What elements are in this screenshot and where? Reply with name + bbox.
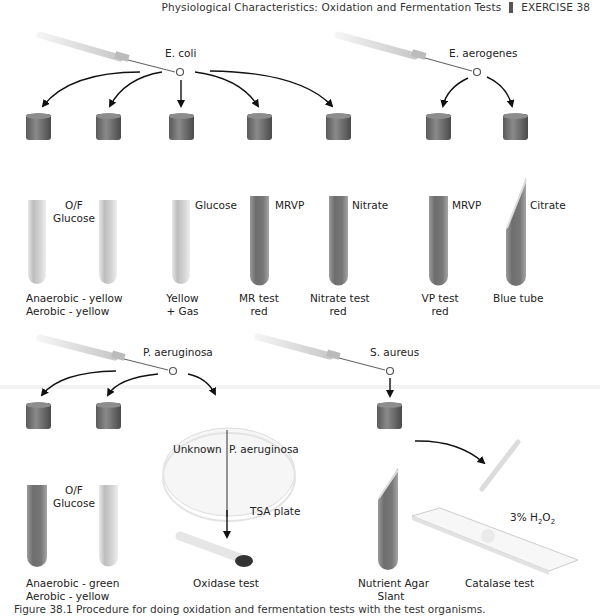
result-vp-test: VP test red: [420, 292, 460, 318]
result-mr-test: MR test red: [239, 292, 279, 318]
oxidase-test-label: Oxidase test: [193, 577, 259, 590]
catalase-test-label: Catalase test: [465, 577, 534, 590]
medium-label-nitrate: Nitrate: [352, 199, 388, 212]
plate-label-paeruginosa: P. aeruginosa: [229, 443, 299, 456]
tube-caps-row2: [26, 402, 402, 429]
medium-label-of-glucose-pa: O/F Glucose: [53, 484, 95, 510]
plate-label-unknown: Unknown: [173, 443, 222, 456]
plate-name: TSA plate: [250, 505, 300, 518]
result-glucose: Yellow + Gas: [165, 292, 200, 318]
result-nitrate-test: Nitrate test red: [310, 292, 366, 318]
organism-label-eaerogenes: E. aerogenes: [449, 47, 517, 60]
organism-label-ecoli: E. coli: [165, 47, 196, 60]
result-of-glucose: Anaerobic - yellow Aerobic - yellow: [26, 292, 123, 318]
nutrient-agar-slant-label: Nutrient Agar Slant: [358, 577, 424, 603]
medium-label-citrate: Citrate: [530, 199, 566, 212]
medium-label-mrvp-vp: MRVP: [452, 199, 481, 212]
tubes-row1: [28, 178, 526, 286]
medium-label-glucose: Glucose: [195, 199, 237, 212]
organism-label-saureus: S. aureus: [370, 346, 419, 359]
result-of-glucose-pa: Anaerobic - green Aerobic - yellow: [26, 577, 119, 603]
medium-label-of-glucose: O/F Glucose: [53, 199, 95, 225]
reagent-h2o2-label: 3% H2O2: [510, 511, 555, 529]
medium-label-mrvp: MRVP: [275, 199, 304, 212]
inoculating-loop-ecoli: [40, 35, 184, 76]
tube-caps-row1: [26, 113, 528, 140]
figure-caption: Figure 38.1 Procedure for doing oxidatio…: [14, 603, 486, 615]
organism-label-paeruginosa: P. aeruginosa: [143, 346, 213, 359]
result-citrate: Blue tube: [493, 292, 543, 305]
oxidase-swab: [180, 536, 253, 567]
